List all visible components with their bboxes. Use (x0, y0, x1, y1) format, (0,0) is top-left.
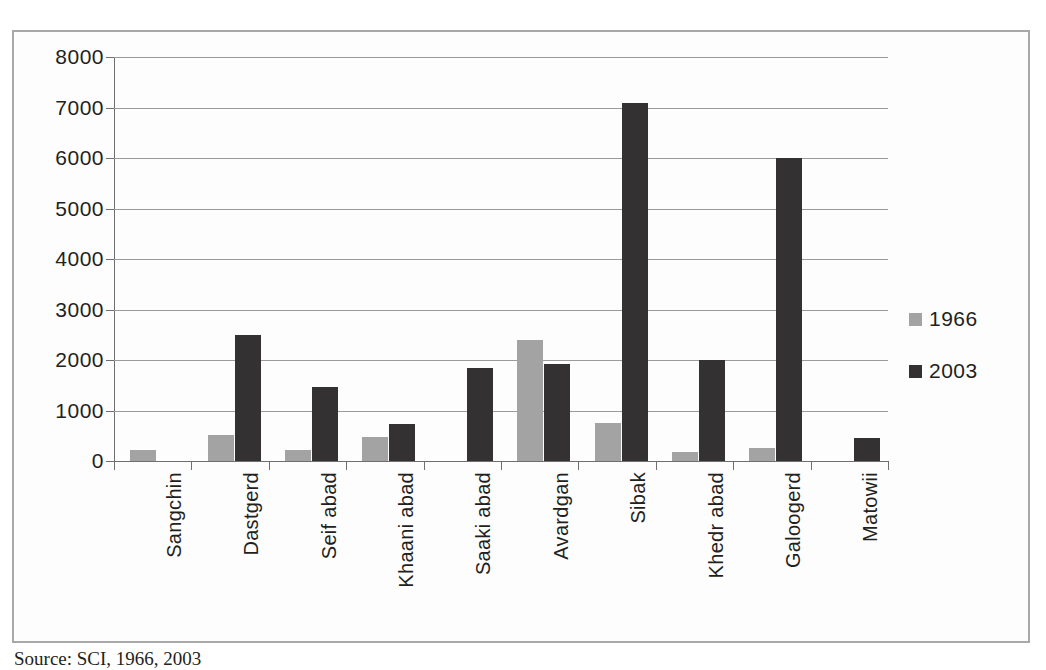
bar-saaki-abad-2003[interactable] (467, 368, 493, 461)
x-axis-label-saaki-abad: Saaki abad (472, 472, 495, 575)
y-axis-tick-label: 7000 (55, 96, 104, 120)
y-axis-labels: 010002000300040005000600070008000 (14, 57, 104, 461)
bar-avardgan-2003[interactable] (544, 364, 570, 461)
bar-group (827, 57, 880, 461)
legend-swatch-icon (909, 313, 922, 326)
bar-dastgerd-2003[interactable] (235, 335, 261, 461)
bar-group (749, 57, 802, 461)
bar-group (517, 57, 570, 461)
bar-seif-abad-2003[interactable] (312, 387, 338, 461)
bar-group (362, 57, 415, 461)
x-axis-tick (501, 461, 502, 470)
bar-group (672, 57, 725, 461)
y-axis-tick-label: 1000 (55, 399, 104, 423)
chart-frame: 010002000300040005000600070008000 Sangch… (12, 30, 1030, 643)
bar-khaani-abad-2003[interactable] (389, 424, 415, 461)
bar-matowii-2003[interactable] (854, 438, 880, 461)
bar-seif-abad-1966[interactable] (285, 450, 311, 461)
bar-khaani-abad-1966[interactable] (362, 437, 388, 461)
x-axis-tick (888, 461, 889, 470)
bar-galoogerd-1966[interactable] (749, 448, 775, 461)
chart-legend: 19662003 (909, 307, 1019, 411)
x-axis-label-galoogerd: Galoogerd (782, 472, 805, 568)
x-axis-label-khaani-abad: Khaani abad (395, 472, 418, 588)
x-axis-label-sibak: Sibak (627, 472, 650, 524)
bar-group (440, 57, 493, 461)
y-axis-tick-label: 3000 (55, 298, 104, 322)
x-axis-label-avardgan: Avardgan (550, 472, 573, 560)
y-axis-tick-label: 6000 (55, 146, 104, 170)
x-axis-tick (424, 461, 425, 470)
x-axis-tick (191, 461, 192, 470)
y-axis-tick-label: 4000 (55, 247, 104, 271)
y-axis-tick-label: 2000 (55, 348, 104, 372)
x-axis-tick (656, 461, 657, 470)
bar-group (208, 57, 261, 461)
x-axis-tick (733, 461, 734, 470)
x-axis-tick (578, 461, 579, 470)
x-axis-tick (811, 461, 812, 470)
bar-galoogerd-2003[interactable] (776, 158, 802, 461)
bar-khedr-abad-2003[interactable] (699, 360, 725, 461)
bar-sibak-1966[interactable] (595, 423, 621, 461)
y-axis-tick-label: 8000 (55, 45, 104, 69)
bar-group (285, 57, 338, 461)
x-axis-label-dastgerd: Dastgerd (240, 472, 263, 556)
x-axis-label-seif-abad: Seif abad (318, 472, 341, 559)
legend-label: 1966 (929, 307, 978, 331)
x-axis-tick (346, 461, 347, 470)
legend-item-1966[interactable]: 1966 (909, 307, 1019, 331)
y-axis-tick-label: 0 (92, 449, 104, 473)
bar-group (595, 57, 648, 461)
plot-area (114, 57, 888, 461)
bar-sangchin-1966[interactable] (130, 450, 156, 461)
x-axis-label-matowii: Matowii (859, 472, 882, 542)
legend-swatch-icon (909, 365, 922, 378)
x-axis-labels: SangchinDastgerdSeif abadKhaani abadSaak… (114, 472, 888, 632)
legend-label: 2003 (929, 359, 978, 383)
source-caption: Source: SCI, 1966, 2003 (14, 648, 201, 670)
bar-khedr-abad-1966[interactable] (672, 452, 698, 461)
bar-sibak-2003[interactable] (622, 103, 648, 461)
bar-dastgerd-1966[interactable] (208, 435, 234, 461)
x-axis-tick (114, 461, 115, 470)
bar-avardgan-1966[interactable] (517, 340, 543, 461)
x-axis-label-sangchin: Sangchin (163, 472, 186, 558)
x-axis-label-khedr-abad: Khedr abad (705, 472, 728, 578)
legend-item-2003[interactable]: 2003 (909, 359, 1019, 383)
bar-group (130, 57, 183, 461)
y-axis-tick-label: 5000 (55, 197, 104, 221)
x-axis-tick (269, 461, 270, 470)
